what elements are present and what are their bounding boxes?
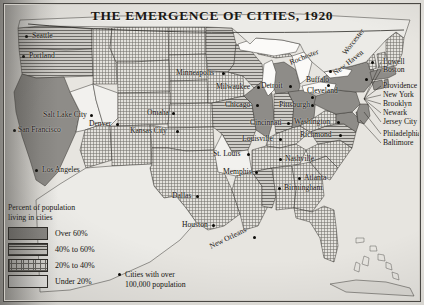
page-frame (3, 3, 421, 302)
map-figure: THE EMERGENCE OF CITIES, 1920 SeattlePor… (0, 0, 424, 305)
